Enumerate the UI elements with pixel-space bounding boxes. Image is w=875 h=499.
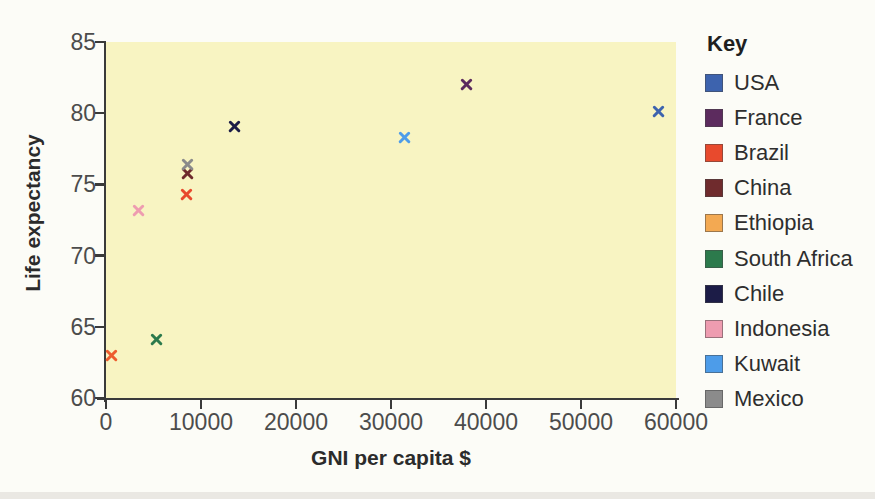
x-axis-title: GNI per capita $ [311, 446, 471, 470]
y-tick-label-75: 75 [44, 173, 96, 196]
data-point-chile [228, 120, 241, 133]
x-tick-label-40000: 40000 [454, 411, 518, 434]
legend-title: Key [707, 33, 870, 55]
legend-item-brazil: Brazil [705, 135, 870, 170]
legend-swatch-brazil [705, 144, 723, 162]
y-tick-80 [95, 112, 104, 115]
x-tick-label-50000: 50000 [549, 411, 613, 434]
y-tick-65 [95, 326, 104, 329]
y-tick-label-85: 85 [44, 31, 96, 54]
legend-swatch-mexico [705, 390, 723, 408]
x-tick-60000 [675, 400, 678, 409]
legend-swatch-kuwait [705, 355, 723, 373]
x-tick-30000 [390, 400, 393, 409]
y-tick-75 [95, 183, 104, 186]
y-tick-label-80: 80 [44, 102, 96, 125]
data-point-south-africa [150, 333, 163, 346]
legend-label-china: China [734, 177, 791, 199]
scan-edge-strip [0, 492, 875, 499]
x-tick-label-30000: 30000 [359, 411, 423, 434]
legend-label-france: France [734, 107, 802, 129]
legend-items: USAFranceBrazilChinaEthiopiaSouth Africa… [705, 65, 870, 417]
legend-label-chile: Chile [734, 283, 784, 305]
legend-label-mexico: Mexico [734, 388, 804, 410]
legend-swatch-china [705, 179, 723, 197]
y-tick-label-60: 60 [44, 387, 96, 410]
x-tick-20000 [295, 400, 298, 409]
x-tick-50000 [580, 400, 583, 409]
legend-swatch-france [705, 109, 723, 127]
legend-item-ethiopia: Ethiopia [705, 206, 870, 241]
data-point-indonesia [132, 204, 145, 217]
legend-label-indonesia: Indonesia [734, 318, 829, 340]
legend-label-kuwait: Kuwait [734, 353, 800, 375]
x-tick-label-0: 0 [100, 411, 113, 434]
data-point-usa [652, 105, 665, 118]
data-point-ethiopia [105, 349, 118, 362]
y-axis-title: Life expectancy [21, 134, 45, 292]
legend-item-chile: Chile [705, 276, 870, 311]
legend-item-south-africa: South Africa [705, 241, 870, 276]
legend-label-south-africa: South Africa [734, 248, 853, 270]
y-tick-label-70: 70 [44, 244, 96, 267]
y-tick-85 [95, 41, 104, 44]
x-tick-0 [105, 400, 108, 409]
data-point-brazil [180, 188, 193, 201]
legend-label-usa: USA [734, 72, 779, 94]
legend: Key USAFranceBrazilChinaEthiopiaSouth Af… [705, 33, 870, 417]
x-tick-40000 [485, 400, 488, 409]
legend-item-france: France [705, 100, 870, 135]
legend-swatch-ethiopia [705, 214, 723, 232]
legend-item-mexico: Mexico [705, 382, 870, 417]
legend-swatch-south-africa [705, 250, 723, 268]
legend-swatch-usa [705, 74, 723, 92]
y-tick-60 [95, 397, 104, 400]
scatter-chart-figure: Life expectancy GNI per capita $ Key USA… [0, 0, 875, 499]
legend-item-china: China [705, 171, 870, 206]
x-axis-line [97, 398, 679, 401]
x-tick-label-10000: 10000 [169, 411, 233, 434]
legend-item-indonesia: Indonesia [705, 311, 870, 346]
legend-item-usa: USA [705, 65, 870, 100]
plot-area [106, 42, 676, 398]
data-point-france [460, 78, 473, 91]
x-tick-label-20000: 20000 [264, 411, 328, 434]
legend-item-kuwait: Kuwait [705, 347, 870, 382]
x-tick-10000 [200, 400, 203, 409]
legend-swatch-indonesia [705, 320, 723, 338]
legend-swatch-chile [705, 285, 723, 303]
legend-label-brazil: Brazil [734, 142, 789, 164]
y-tick-70 [95, 254, 104, 257]
data-point-mexico [181, 158, 194, 171]
y-tick-label-65: 65 [44, 315, 96, 338]
data-point-kuwait [398, 131, 411, 144]
legend-label-ethiopia: Ethiopia [734, 212, 814, 234]
x-tick-label-60000: 60000 [644, 411, 708, 434]
